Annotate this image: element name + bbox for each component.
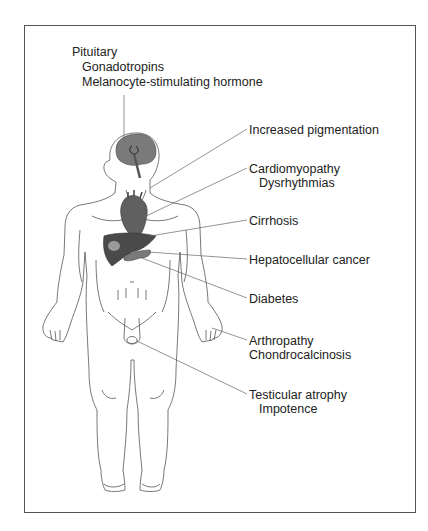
label-cardiomyopathy: Cardiomyopathy	[249, 162, 340, 176]
label-dysrhythmias: Dysrhythmias	[259, 176, 335, 190]
label-cirrhosis: Cirrhosis	[249, 214, 298, 228]
label-testicular-atrophy: Testicular atrophy	[249, 388, 347, 402]
head-outline	[43, 133, 222, 492]
leader-diabetes	[142, 258, 247, 298]
label-chondrocalcinosis: Chondrocalcinosis	[249, 348, 351, 362]
leader-hcc	[148, 252, 247, 259]
label-msh: Melanocyte-stimulating hormone	[82, 75, 263, 89]
label-diabetes: Diabetes	[249, 292, 298, 306]
label-arthropathy: Arthropathy	[249, 334, 314, 348]
liver-tumor	[108, 241, 120, 251]
label-pituitary: Pituitary	[72, 45, 117, 59]
leader-cirrhosis	[150, 220, 247, 236]
label-gonadotropins: Gonadotropins	[82, 60, 164, 74]
leader-testes	[137, 341, 247, 394]
label-increased-pigmentation: Increased pigmentation	[249, 123, 379, 137]
label-impotence: Impotence	[259, 402, 317, 416]
leader-joints	[212, 328, 247, 340]
leader-pigmentation	[150, 129, 247, 188]
label-hepatocellular-cancer: Hepatocellular cancer	[249, 253, 370, 267]
